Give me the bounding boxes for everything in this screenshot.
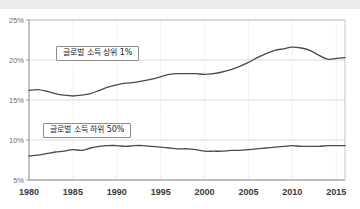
x-tick-label: 1995 (151, 187, 171, 197)
y-tick-label: 5% (13, 176, 24, 185)
chart-svg: 5%10%15%20%25% 1980198519901995200020052… (0, 0, 360, 209)
income-share-chart: 5%10%15%20%25% 1980198519901995200020052… (0, 0, 360, 209)
x-tick-label: 2010 (282, 187, 302, 197)
y-tick-label: 20% (9, 56, 24, 65)
y-axis-tick-labels: 5%10%15%20%25% (9, 16, 29, 185)
y-tick-label: 25% (9, 16, 24, 25)
x-tick-label: 1985 (63, 187, 83, 197)
x-axis-tick-labels: 19801985199019952000200520102015 (19, 187, 346, 197)
x-tick-label: 2015 (326, 187, 346, 197)
x-tick-label: 1990 (107, 187, 127, 197)
gridlines (29, 20, 345, 180)
series-line-bottom-50-percent (29, 146, 345, 156)
x-tick-label: 2005 (238, 187, 258, 197)
x-tick-label: 2000 (195, 187, 215, 197)
y-tick-label: 10% (9, 136, 24, 145)
x-tick-label: 1980 (19, 187, 39, 197)
callout-top-1-percent: 글로벌 소득 상위 1% (56, 46, 139, 61)
callout-bottom-50-percent: 글로벌 소득 하위 50% (43, 123, 131, 138)
plot-area-wrapper: 5%10%15%20%25% 1980198519901995200020052… (0, 0, 360, 209)
y-tick-label: 15% (9, 96, 24, 105)
